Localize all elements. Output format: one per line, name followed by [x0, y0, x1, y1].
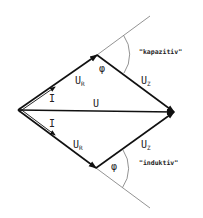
annotation-kapazitiv: "kapazitiv"	[139, 48, 182, 56]
label-phi-lower: φ	[111, 161, 117, 172]
label-i-upper: I	[49, 93, 55, 104]
phasor-diagram-svg: U UR UR UZ UZ I I φ φ "kapazitiv" "induk…	[0, 0, 203, 218]
label-phi-upper: φ	[99, 63, 105, 74]
vector-ur-upper	[18, 55, 97, 110]
label-i-lower: I	[49, 118, 55, 129]
label-uz-lower: UZ	[141, 139, 151, 151]
phasor-diagram: U UR UR UZ UZ I I φ φ "kapazitiv" "induk…	[0, 0, 203, 218]
label-u: U	[93, 98, 99, 109]
angle-arc-lower	[123, 150, 129, 187]
label-uz-upper: UZ	[141, 75, 151, 87]
vector-uz-upper	[97, 55, 174, 112]
annotation-induktiv: "induktiv"	[139, 159, 178, 167]
label-ur-upper: UR	[75, 75, 85, 87]
label-ur-lower: UR	[73, 139, 83, 151]
angle-arc-upper	[124, 35, 130, 73]
vector-u	[18, 110, 174, 112]
extension-line-lower	[96, 168, 150, 208]
vector-ur-lower	[18, 110, 96, 168]
